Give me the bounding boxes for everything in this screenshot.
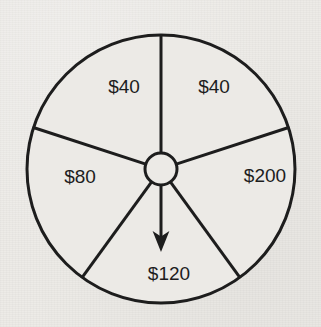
sector-label-left: $80 — [64, 166, 96, 187]
sector-label-top-right: $40 — [198, 76, 230, 97]
sector-label-right: $200 — [244, 165, 286, 186]
spinner-figure: $40 $40 $200 $120 $80 — [0, 0, 321, 327]
wheel-hub — [145, 153, 177, 185]
spinner-wheel-graphic: $40 $40 $200 $120 $80 — [0, 0, 321, 327]
sector-label-top-left: $40 — [108, 76, 140, 97]
sector-label-bottom: $120 — [148, 263, 190, 284]
